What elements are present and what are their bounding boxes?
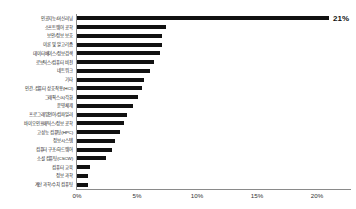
- x-tick-label: 10%: [191, 192, 203, 199]
- x-tick-label: 5%: [133, 192, 142, 199]
- bar-container: [77, 180, 88, 189]
- bar-row: 네트워크: [0, 67, 356, 76]
- bar: [77, 174, 88, 178]
- bar-container: [77, 84, 142, 93]
- bar-category-label: 소셜 컴퓨팅(CSCW): [0, 156, 73, 161]
- bar: [77, 148, 112, 152]
- bar-row: 운영체제: [0, 102, 356, 111]
- bar-chart: 인공지능/머신러닝21%소프트웨어 공학보안/정보 보호이론 및 알고리즘데이터…: [0, 0, 356, 209]
- bar-category-label: 계산 과학/수치 컴퓨팅: [0, 182, 73, 187]
- bar-row: 컴퓨터 교육: [0, 163, 356, 172]
- bar-category-label: 기타: [0, 77, 73, 82]
- bar: [77, 104, 133, 108]
- bar: [77, 95, 138, 99]
- bar-category-label: 바이오인포매틱스/정보 공학: [0, 121, 73, 126]
- bar: [77, 78, 144, 82]
- bar-row: 인간-컴퓨터 상호작용(HCI): [0, 84, 356, 93]
- bar-container: [77, 102, 133, 111]
- bar-category-label: 컴퓨터 교육: [0, 165, 73, 170]
- bar-category-label: 컴퓨터 구조/하드웨어: [0, 147, 73, 152]
- bar-category-label: 고성능 컴퓨팅(HPC): [0, 130, 73, 135]
- bar: [77, 51, 160, 55]
- bar-row: 고성능 컴퓨팅(HPC): [0, 128, 356, 137]
- bar-category-label: 정보시스템: [0, 138, 73, 143]
- bar-row: 계산 과학/수치 컴퓨팅: [0, 180, 356, 189]
- bar-category-label: 로보틱스/컴퓨터 비전: [0, 60, 73, 65]
- bar-container: [77, 32, 162, 41]
- bar: [77, 139, 115, 143]
- bar: [77, 156, 106, 160]
- bar-container: [77, 137, 115, 146]
- bar-rows: 인공지능/머신러닝21%소프트웨어 공학보안/정보 보호이론 및 알고리즘데이터…: [0, 14, 356, 189]
- bar-category-label: 그래픽스/시각화: [0, 95, 73, 100]
- bar-row: 이론 및 알고리즘: [0, 40, 356, 49]
- bar: [77, 43, 162, 47]
- bar: [77, 183, 88, 187]
- bar-container: [77, 75, 144, 84]
- bar-container: [77, 40, 162, 49]
- x-tick-label: 15%: [251, 192, 263, 199]
- bar: [77, 86, 142, 90]
- bar: [77, 165, 90, 169]
- bar-row: 프로그래밍언어/컴파일러: [0, 110, 356, 119]
- bar-category-label: 소프트웨어 공학: [0, 25, 73, 30]
- bar-container: 21%: [77, 14, 349, 23]
- bar-category-label: 데이터베이스/정보검색: [0, 51, 73, 56]
- bar-category-label: 프로그래밍언어/컴파일러: [0, 112, 73, 117]
- bar: [77, 69, 150, 73]
- bar-row: 그래픽스/시각화: [0, 93, 356, 102]
- bar-row: 소셜 컴퓨팅(CSCW): [0, 154, 356, 163]
- bar-category-label: 보안/정보 보호: [0, 33, 73, 38]
- bar-row: 데이터베이스/정보검색: [0, 49, 356, 58]
- bar-container: [77, 119, 124, 128]
- bar-container: [77, 172, 88, 181]
- bar-row: 바이오인포매틱스/정보 공학: [0, 119, 356, 128]
- bar-container: [77, 110, 127, 119]
- x-axis-ticks: 0%5%10%15%20%: [0, 192, 356, 206]
- bar: [77, 113, 127, 117]
- bar-container: [77, 49, 160, 58]
- bar-category-label: 네트워크: [0, 68, 73, 73]
- bar: [77, 34, 162, 38]
- bar-row: 소프트웨어 공학: [0, 23, 356, 32]
- x-tick-label: 0%: [73, 192, 82, 199]
- bar-value-label: 21%: [333, 14, 349, 23]
- x-tick-label: 20%: [311, 192, 323, 199]
- bar-container: [77, 23, 166, 32]
- bar-container: [77, 163, 90, 172]
- bar-container: [77, 154, 106, 163]
- bar: [77, 121, 124, 125]
- bar-category-label: 인간-컴퓨터 상호작용(HCI): [0, 86, 73, 91]
- bar-row: 컴퓨터 구조/하드웨어: [0, 145, 356, 154]
- bar-row: 보안/정보 보호: [0, 32, 356, 41]
- bar-container: [77, 145, 112, 154]
- bar-category-label: 운영체제: [0, 103, 73, 108]
- bar: [77, 130, 120, 134]
- bar: [77, 60, 154, 64]
- bar-row: 기타: [0, 75, 356, 84]
- bar-container: [77, 128, 120, 137]
- bar: [77, 25, 166, 29]
- bar-row: 인공지능/머신러닝21%: [0, 14, 356, 23]
- bar-row: 로보틱스/컴퓨터 비전: [0, 58, 356, 67]
- bar-row: 정보 과학: [0, 172, 356, 181]
- x-axis-line: [76, 189, 351, 190]
- bar-category-label: 이론 및 알고리즘: [0, 42, 73, 47]
- bar-container: [77, 93, 138, 102]
- bar-row: 정보시스템: [0, 137, 356, 146]
- bar: [77, 16, 329, 20]
- bar-container: [77, 67, 150, 76]
- bar-container: [77, 58, 154, 67]
- bar-category-label: 정보 과학: [0, 173, 73, 178]
- bar-category-label: 인공지능/머신러닝: [0, 16, 73, 21]
